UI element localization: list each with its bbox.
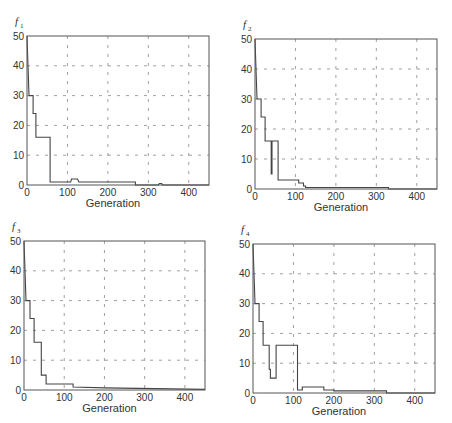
series-line-f1: [27, 36, 209, 185]
x-tick-label: 0: [250, 395, 256, 406]
x-tick-label: 300: [368, 191, 385, 202]
subplot-f3: 010203040500100200300400Generationf3: [10, 220, 205, 414]
x-tick-label: 300: [136, 392, 153, 403]
subplot-f4: 010203040500100200300400Generationf4: [239, 223, 435, 417]
x-tick-label: 300: [140, 187, 157, 198]
subplot-title-subscript: 4: [246, 230, 250, 238]
x-tick-label: 400: [406, 395, 423, 406]
subplot-title-subscript: 2: [248, 25, 252, 33]
x-tick-label: 100: [287, 191, 304, 202]
y-tick-label: 30: [239, 298, 251, 309]
series-line-f4: [253, 244, 435, 393]
y-tick-label: 40: [239, 268, 251, 279]
x-tick-label: 400: [180, 187, 197, 198]
x-tick-label: 0: [24, 187, 30, 198]
series-line-f3: [24, 241, 205, 389]
grid-lines: [24, 241, 205, 390]
grid-lines: [255, 39, 437, 189]
x-tick-label: 0: [252, 191, 258, 202]
y-tick-label: 10: [239, 358, 251, 369]
x-axis-label: Generation: [82, 402, 136, 414]
x-axis-label: Generation: [312, 405, 366, 417]
x-tick-label: 400: [408, 191, 425, 202]
y-tick-label: 10: [10, 355, 22, 366]
y-tick-label: 10: [13, 150, 25, 161]
y-tick-label: 30: [10, 295, 22, 306]
axes-frame: [27, 36, 209, 185]
y-tick-label: 50: [239, 239, 251, 250]
figure: 010203040500100200300400Generationf1 010…: [0, 0, 452, 423]
x-axis-label: Generation: [86, 197, 140, 209]
subplot-f2: 010203040500100200300400Generationf2: [241, 18, 437, 213]
subplot-title-subscript: 3: [17, 227, 21, 235]
y-tick-label: 30: [241, 94, 253, 105]
x-tick-label: 100: [285, 395, 302, 406]
y-tick-label: 50: [241, 34, 253, 45]
subplot-title-subscript: 1: [20, 22, 24, 30]
x-axis-label: Generation: [314, 201, 368, 213]
y-tick-label: 20: [241, 124, 253, 135]
grid-lines: [253, 244, 435, 393]
y-tick-label: 50: [10, 236, 22, 247]
x-tick-label: 0: [21, 392, 27, 403]
x-tick-label: 300: [366, 395, 383, 406]
y-tick-label: 30: [13, 90, 25, 101]
x-tick-label: 400: [177, 392, 194, 403]
y-tick-label: 40: [13, 60, 25, 71]
y-tick-label: 40: [10, 265, 22, 276]
axes-frame: [253, 244, 435, 393]
axes-frame: [24, 241, 205, 390]
axes-frame: [255, 39, 437, 189]
x-tick-label: 100: [59, 187, 76, 198]
y-tick-label: 20: [10, 325, 22, 336]
x-tick-label: 100: [56, 392, 73, 403]
y-tick-label: 50: [13, 31, 25, 42]
y-tick-label: 20: [13, 120, 25, 131]
y-tick-label: 40: [241, 64, 253, 75]
y-tick-label: 20: [239, 328, 251, 339]
grid-lines: [27, 36, 209, 185]
subplot-f1: 010203040500100200300400Generationf1: [13, 15, 209, 209]
series-line-f2: [255, 39, 437, 189]
y-tick-label: 10: [241, 154, 253, 165]
